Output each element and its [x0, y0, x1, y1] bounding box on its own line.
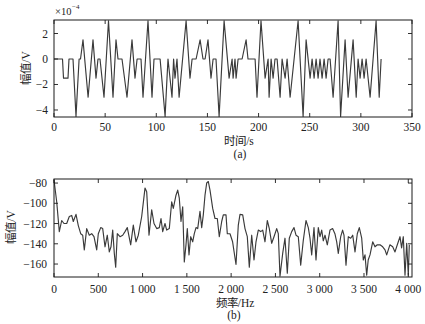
x-tick-label: 3 500	[351, 283, 377, 295]
data-line	[54, 180, 409, 276]
y-tick-label: −100	[23, 197, 47, 209]
x-tick-label: 3 000	[307, 283, 333, 295]
x-tick-label: 1 000	[130, 283, 156, 295]
x-tick-label: 350	[403, 121, 421, 133]
x-tick-label: 2 500	[262, 283, 288, 295]
x-tick-label: 50	[99, 121, 111, 133]
y-tick-label: −160	[23, 258, 47, 270]
x-tick-label: 0	[51, 121, 57, 133]
x-tick-label: 200	[250, 121, 268, 133]
chart-a-scale-factor-base: ×10	[55, 6, 71, 17]
x-tick-label: 4 000	[395, 283, 421, 295]
chart-a-y-axis-label: 幅值/V	[20, 51, 32, 85]
chart-b-spectrum: 05001 0001 5002 0002 5003 0003 5004 000−…	[23, 177, 421, 295]
y-tick-label: −4	[36, 104, 48, 116]
chart-a-x-axis-label: 时间/s	[224, 135, 254, 147]
chart-a-panel-label: (a)	[234, 148, 247, 161]
x-tick-label: 500	[90, 283, 108, 295]
x-tick-label: 0	[51, 283, 57, 295]
x-tick-label: 300	[352, 121, 370, 133]
y-tick-label: −140	[23, 238, 47, 250]
chart-b-x-axis-label: 频率/Hz	[216, 296, 255, 309]
chart-a-time-signal: 05010015020025030035020−2−4	[36, 20, 421, 133]
y-tick-label: −2	[36, 78, 48, 90]
chart-b-y-axis-label: 幅值/V	[5, 210, 17, 244]
x-tick-label: 250	[301, 121, 319, 133]
chart-b-panel-label: (b)	[227, 309, 241, 322]
figure: 05010015020025030035020−2−4 ×10 −4 幅值/V …	[0, 0, 425, 324]
y-tick-label: 2	[42, 28, 48, 40]
data-line	[54, 21, 381, 117]
y-tick-label: −120	[23, 218, 47, 230]
chart-a-scale-factor-exponent: −4	[72, 3, 80, 11]
x-tick-label: 2 000	[218, 283, 244, 295]
plot-frame	[54, 179, 412, 277]
x-tick-label: 1 500	[174, 283, 200, 295]
y-tick-label: −80	[29, 177, 47, 189]
x-tick-label: 100	[148, 121, 166, 133]
x-tick-label: 150	[199, 121, 217, 133]
y-tick-label: 0	[42, 53, 48, 65]
